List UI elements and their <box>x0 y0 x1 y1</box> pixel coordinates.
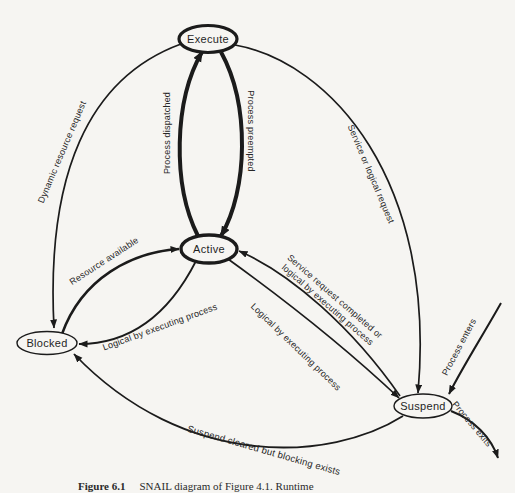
figure-caption-text: SNAIL diagram of Figure 4.1. Runtime <box>139 480 313 492</box>
state-diagram-canvas <box>0 0 515 493</box>
figure-caption-number: Figure 6.1 <box>78 480 125 492</box>
blocked-state-ellipse <box>17 332 77 355</box>
active-state-ellipse <box>181 235 237 263</box>
figure-caption: Figure 6.1SNAIL diagram of Figure 4.1. R… <box>78 480 314 492</box>
edge-suspend-to-blocked-path <box>74 354 403 447</box>
book-page: Execute Active Blocked Suspend Dynamic r… <box>0 0 515 493</box>
edge-active-to-blocked-path <box>79 261 196 344</box>
edge-blocked-to-active-path <box>62 249 179 334</box>
execute-state-ellipse <box>179 26 237 53</box>
edge-execute-to-active-path <box>221 52 242 236</box>
edge-execute-to-blocked-path <box>53 44 181 328</box>
edge-process-exits-path <box>451 411 498 458</box>
edge-execute-to-suspend-path <box>235 45 420 393</box>
edge-active-to-suspend-path <box>228 259 399 398</box>
edge-suspend-to-active-path <box>239 251 400 396</box>
edge-process-enters-path <box>449 303 501 394</box>
edge-active-to-execute-path <box>180 52 202 236</box>
suspend-state-ellipse <box>394 394 452 418</box>
